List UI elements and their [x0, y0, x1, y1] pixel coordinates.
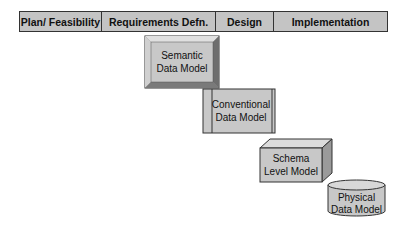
model-diagram: Semantic Data Model Conventional Data Mo…	[0, 0, 402, 227]
semantic-data-model: Semantic Data Model	[145, 36, 219, 88]
conventional-line2: Data Model	[215, 112, 266, 123]
conventional-data-model: Conventional Data Model	[203, 89, 275, 133]
physical-line1: Physical	[338, 192, 375, 203]
physical-line2: Data Model	[331, 204, 382, 215]
schema-line2: Level Model	[264, 166, 318, 177]
conventional-line1: Conventional	[212, 99, 270, 110]
physical-data-model: Physical Data Model	[328, 180, 385, 216]
semantic-line2: Data Model	[156, 63, 207, 74]
schema-level-model: Schema Level Model	[260, 139, 332, 182]
schema-line1: Schema	[273, 153, 310, 164]
semantic-line1: Semantic	[161, 50, 203, 61]
